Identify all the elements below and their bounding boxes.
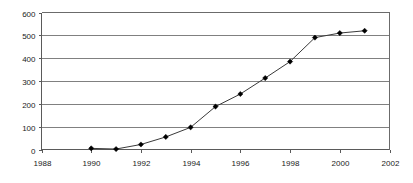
x-tick-label-1990: 1990	[83, 159, 101, 168]
y-tick-label-500: 500	[22, 32, 36, 41]
x-tick-label-1998: 1998	[282, 159, 300, 168]
y-tick-label-200: 200	[22, 101, 36, 110]
x-tick-label-1988: 1988	[34, 159, 52, 168]
y-tick-label-600: 600	[22, 10, 36, 19]
x-tick-label-2002: 2002	[382, 159, 400, 168]
line-chart: 0100200300400500600 19881990199219941996…	[0, 0, 413, 183]
chart-background	[0, 0, 413, 183]
chart-canvas: 0100200300400500600 19881990199219941996…	[0, 0, 413, 183]
x-tick-label-1996: 1996	[232, 159, 250, 168]
x-tick-label-2000: 2000	[332, 159, 350, 168]
y-tick-label-0: 0	[31, 147, 36, 156]
y-tick-label-100: 100	[22, 124, 36, 133]
x-tick-label-1992: 1992	[133, 159, 151, 168]
y-tick-label-300: 300	[22, 78, 36, 87]
x-tick-label-1994: 1994	[183, 159, 201, 168]
y-tick-label-400: 400	[22, 55, 36, 64]
